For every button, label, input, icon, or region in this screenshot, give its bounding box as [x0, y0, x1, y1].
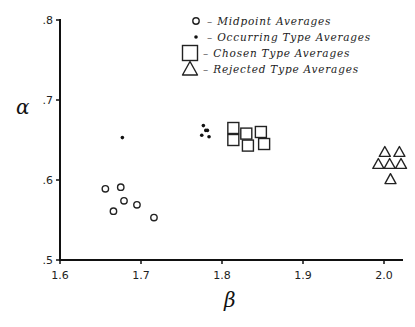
x-tick-label: 1.9 — [294, 269, 312, 282]
dot-marker — [200, 133, 204, 137]
dot-marker — [204, 129, 208, 133]
legend: – Midpoint Averages– Occurring Type Aver… — [183, 15, 372, 75]
legend-label: – Midpoint Averages — [207, 15, 331, 27]
open-square-marker — [241, 128, 252, 139]
x-tick-label: 1.8 — [213, 269, 231, 282]
y-tick-label: .5 — [43, 254, 54, 267]
x-tick-label: 2.0 — [375, 269, 393, 282]
open-triangle-marker — [385, 174, 396, 184]
y-tick-label: .6 — [43, 174, 54, 187]
open-circle-marker — [118, 184, 124, 190]
legend-label: – Chosen Type Averages — [203, 47, 350, 59]
open-triangle-marker — [379, 147, 390, 157]
legend-label: – Occurring Type Averages — [207, 31, 371, 43]
open-triangle-marker — [396, 159, 407, 169]
y-tick-label: .8 — [43, 14, 54, 27]
y-axis-label: α — [16, 95, 30, 119]
open-square-marker — [255, 127, 266, 138]
dot-marker — [194, 35, 198, 39]
open-circle-marker — [134, 202, 140, 208]
dot-marker — [202, 124, 206, 128]
open-triangle-marker — [384, 159, 395, 169]
open-square-marker — [242, 140, 253, 151]
open-circle-marker — [193, 18, 199, 24]
open-square-marker — [228, 135, 239, 146]
open-circle-marker — [110, 208, 116, 214]
dot-marker — [207, 135, 211, 139]
open-triangle-marker — [373, 159, 384, 169]
open-triangle-marker — [183, 62, 198, 76]
open-circle-marker — [121, 198, 127, 204]
y-tick-label: .7 — [43, 94, 54, 107]
open-square-marker — [183, 46, 198, 61]
x-tick-label: 1.7 — [132, 269, 150, 282]
open-triangle-marker — [394, 147, 405, 157]
open-square-marker — [228, 123, 239, 134]
dot-marker — [121, 136, 125, 140]
x-axis-label: β — [223, 288, 236, 312]
x-tick-label: 1.6 — [51, 269, 69, 282]
scatter-chart: .5.6.7.81.61.71.81.92.0 – Midpoint Avera… — [0, 0, 415, 327]
data-points — [102, 123, 406, 221]
open-circle-marker — [151, 214, 157, 220]
open-square-marker — [259, 139, 270, 150]
open-circle-marker — [102, 186, 108, 192]
legend-label: – Rejected Type Averages — [203, 63, 359, 75]
